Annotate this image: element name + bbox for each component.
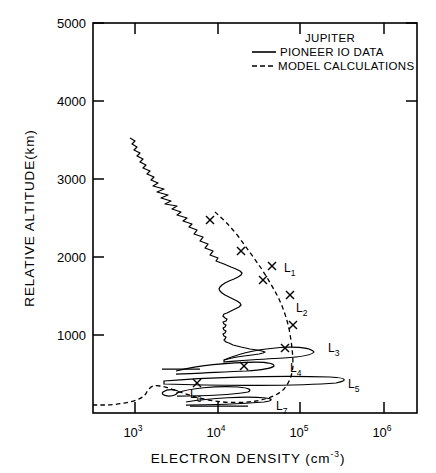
y-tick-label-3000: 3000 [57, 172, 86, 187]
svg-text:103: 103 [123, 423, 142, 440]
x-axis-title: ELECTRON DENSITY (cm-3) [151, 449, 346, 466]
marker-x-2 [237, 247, 245, 255]
marker-x-3 [206, 216, 214, 224]
layer-annotations: L1 L2 L3 L4 L5 L6 L7 [190, 261, 360, 416]
svg-text:106: 106 [372, 423, 391, 440]
x-tick-label-1e4: 104 [206, 423, 225, 440]
legend-label-pioneer: PIONEER IO DATA [280, 46, 384, 58]
y-tick-label-5000: 5000 [57, 16, 86, 31]
data-markers [193, 216, 297, 387]
svg-text:104: 104 [206, 423, 225, 440]
annotation-L3: L3 [328, 341, 340, 358]
figure-container: 5000 4000 3000 2000 1000 103 104 105 106… [0, 0, 436, 473]
x-tick-label-1e6: 106 [372, 423, 391, 440]
y-axis-title: RELATIVE ALTITUDE(km) [22, 129, 37, 306]
legend: JUPITER PIONEER IO DATA MODEL CALCULATIO… [252, 32, 414, 72]
x-tick-label-1e5: 105 [289, 423, 308, 440]
legend-label-model: MODEL CALCULATIONS [278, 60, 414, 72]
annotation-L1: L1 [284, 261, 296, 278]
y-tick-label-1000: 1000 [57, 328, 86, 343]
marker-x-L2 [286, 291, 294, 299]
marker-x-4 [289, 321, 297, 329]
layer-L3-lobe [224, 347, 314, 362]
marker-x-L4 [240, 362, 248, 370]
x-tick-label-1e3: 103 [123, 423, 142, 440]
layer-L5-lobe [164, 376, 344, 385]
svg-text:105: 105 [289, 423, 308, 440]
marker-x-1 [259, 276, 267, 284]
y-axis-tick-labels: 5000 4000 3000 2000 1000 [57, 16, 86, 343]
marker-x-L6 [193, 379, 201, 387]
y-tick-label-2000: 2000 [57, 250, 86, 265]
marker-x-L1 [268, 262, 276, 270]
annotation-L2: L2 [296, 301, 308, 318]
series-pioneer-10-data [130, 138, 265, 360]
electron-density-altitude-chart: 5000 4000 3000 2000 1000 103 104 105 106… [0, 0, 436, 473]
layer-L4-lobe [176, 362, 274, 374]
layer-L6-squiggle [162, 390, 178, 396]
annotation-L5: L5 [348, 377, 360, 394]
legend-title: JUPITER [305, 32, 355, 44]
y-tick-label-4000: 4000 [57, 94, 86, 109]
x-axis-tick-labels: 103 104 105 106 [123, 423, 391, 440]
